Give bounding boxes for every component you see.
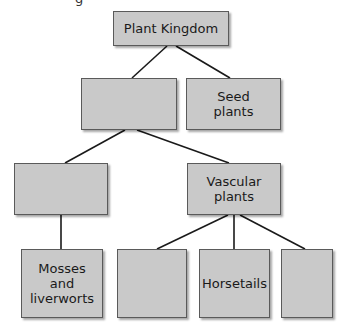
- edge-blank-row2-left-to-blank-row3-left: [65, 130, 125, 163]
- edge-blank-row2-left-to-vascular-plants: [137, 130, 229, 163]
- node-blank-row2-left: [81, 78, 177, 130]
- plant-kingdom-diagram: g Plant KingdomSeedplantsVascularplantsM…: [0, 0, 338, 329]
- node-horsetails: Horsetails: [199, 249, 270, 318]
- edge-vascular-plants-to-blank-row4-4: [240, 215, 305, 249]
- node-mosses-liverworts: Mossesandliverworts: [21, 249, 103, 318]
- node-label: Horsetails: [202, 276, 267, 291]
- node-vascular-plants: Vascularplants: [187, 163, 281, 215]
- node-label: Seedplants: [214, 89, 254, 119]
- node-blank-row4-4: [281, 249, 333, 318]
- edge-vascular-plants-to-blank-row4-2: [157, 215, 228, 249]
- node-label: Plant Kingdom: [124, 21, 218, 36]
- node-blank-row3-left: [14, 163, 108, 215]
- node-blank-row4-2: [117, 249, 187, 318]
- node-plant-kingdom: Plant Kingdom: [113, 11, 229, 46]
- node-label: Vascularplants: [207, 174, 262, 204]
- node-label: Mossesandliverworts: [30, 261, 94, 306]
- edge-plant-kingdom-to-seed-plants: [176, 46, 230, 78]
- edge-plant-kingdom-to-blank-row2-left: [132, 46, 167, 78]
- node-seed-plants: Seedplants: [186, 78, 281, 130]
